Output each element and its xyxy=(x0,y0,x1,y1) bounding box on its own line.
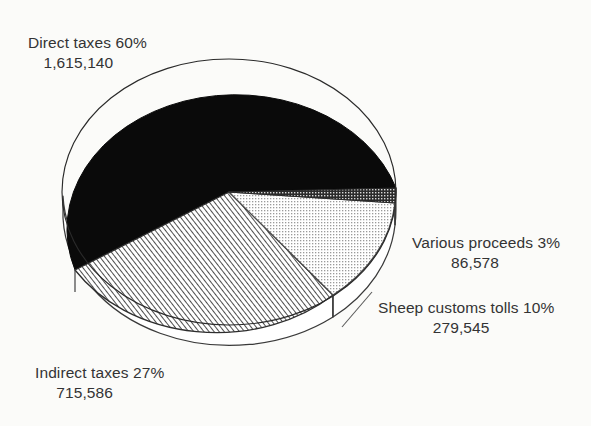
pie-label-various-proceeds: Various proceeds 3% 86,578 xyxy=(412,233,560,274)
pie-label-indirect-taxes: Indirect taxes 27% 715,586 xyxy=(35,363,164,404)
pie-label-indirect-taxes-name: Indirect taxes 27% xyxy=(35,363,164,383)
pie-label-indirect-taxes-value: 715,586 xyxy=(35,383,164,403)
pie-label-sheep-customs-tolls-name: Sheep customs tolls 10% xyxy=(378,298,554,318)
pie-chart-figure: Direct taxes 60% 1,615,140 Various proce… xyxy=(0,0,591,426)
pie-label-sheep-customs-tolls-value: 279,545 xyxy=(378,318,554,338)
pie-label-direct-taxes-name: Direct taxes 60% xyxy=(28,33,147,53)
pie-label-sheep-customs-tolls: Sheep customs tolls 10% 279,545 xyxy=(378,298,554,339)
pie-label-direct-taxes-value: 1,615,140 xyxy=(28,53,147,73)
pie-label-direct-taxes: Direct taxes 60% 1,615,140 xyxy=(28,33,147,74)
pie-label-various-proceeds-name: Various proceeds 3% xyxy=(412,233,560,253)
pie-label-various-proceeds-value: 86,578 xyxy=(412,253,560,273)
